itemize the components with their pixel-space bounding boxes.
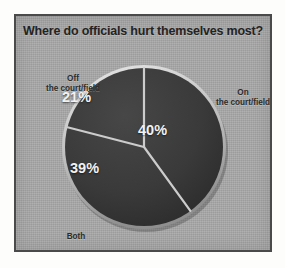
slice-label-both-line1: Both xyxy=(67,232,86,241)
slice-label-off-court-line1: Offthe court/field xyxy=(46,74,100,93)
slice-label-on-court: Onthe court/field xyxy=(210,88,276,109)
figure-frame: Where do officials hurt themselves most? xyxy=(14,14,272,252)
slice-label-off-court: Offthe court/field xyxy=(42,74,104,95)
slice-label-on-court-line1: Onthe court/field xyxy=(216,88,270,107)
slice-value-on-court: 40% xyxy=(138,122,167,138)
slice-label-both: Both xyxy=(50,232,102,242)
chart-screenshot: Where do officials hurt themselves most? xyxy=(0,0,285,268)
slice-value-both: 39% xyxy=(70,160,99,176)
chart-title: Where do officials hurt themselves most? xyxy=(16,24,270,38)
